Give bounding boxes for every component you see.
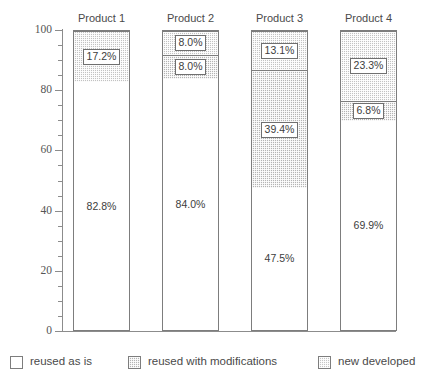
bar-segment-reused-as-is[interactable]: 47.5% [252,188,307,330]
bar-segment-new-developed[interactable]: 23.3% [341,31,396,101]
legend-item-3[interactable]: new developed [318,352,415,372]
y-axis: 020406080100 [0,0,63,391]
legend-swatch-icon [128,356,141,369]
bar-value-label: 84.0% [176,199,206,210]
bar-segment-new-developed[interactable]: 17.2% [74,31,129,82]
y-axis-tick-label: 40 [0,205,52,217]
bar-value-label: 39.4% [261,122,299,138]
y-axis-tick-label: 100 [0,24,52,36]
bar-value-label: 17.2% [83,49,121,65]
bar-segment-new-developed[interactable]: 13.1% [252,31,307,70]
legend-label: reused with modifications [148,356,277,368]
legend-label: new developed [338,356,415,368]
bar-segment-reused-as-is[interactable]: 69.9% [341,121,396,330]
bar-value-label: 69.9% [354,220,384,231]
y-axis-tick-label: 0 [0,325,52,337]
bar-1[interactable]: 82.8%17.2% [73,30,130,331]
legend-item-2[interactable]: reused with modifications [128,352,277,372]
category-label-2: Product 2 [146,13,236,24]
category-label-1: Product 1 [57,13,147,24]
legend-label: reused as is [30,356,92,368]
y-axis-tick-label: 80 [0,84,52,96]
bar-segment-reused-with-modifications[interactable]: 39.4% [252,70,307,188]
bar-segment-new-developed[interactable]: 8.0% [163,31,218,55]
legend-swatch-icon [10,356,23,369]
category-label-3: Product 3 [235,13,325,24]
chart-legend: reused as isreused with modificationsnew… [0,352,439,376]
bar-value-label: 47.5% [265,253,295,264]
legend-swatch-icon [318,356,331,369]
bar-value-label: 8.0% [175,59,207,75]
y-axis-tick-label: 60 [0,144,52,156]
plot-area: 82.8%17.2%84.0%8.0%8.0%47.5%39.4%13.1%69… [63,30,395,331]
bar-value-label: 6.8% [353,103,385,119]
bar-value-label: 13.1% [261,43,299,59]
x-axis-line [62,331,396,332]
bar-value-label: 23.3% [350,58,388,74]
bar-segment-reused-with-modifications[interactable]: 8.0% [163,55,218,79]
bar-2[interactable]: 84.0%8.0%8.0% [162,30,219,331]
bar-value-label: 8.0% [175,35,207,51]
legend-item-1[interactable]: reused as is [10,352,92,372]
bar-3[interactable]: 47.5%39.4%13.1% [251,30,308,331]
bar-segment-reused-with-modifications[interactable]: 6.8% [341,101,396,121]
stacked-bar-chart: 020406080100 Product 1Product 2Product 3… [0,0,439,391]
bar-value-label: 82.8% [87,201,117,212]
bar-4[interactable]: 69.9%6.8%23.3% [340,30,397,331]
y-axis-tick-label: 20 [0,265,52,277]
bar-segment-reused-as-is[interactable]: 84.0% [163,79,218,330]
bar-segment-reused-as-is[interactable]: 82.8% [74,82,129,330]
category-label-4: Product 4 [324,13,414,24]
